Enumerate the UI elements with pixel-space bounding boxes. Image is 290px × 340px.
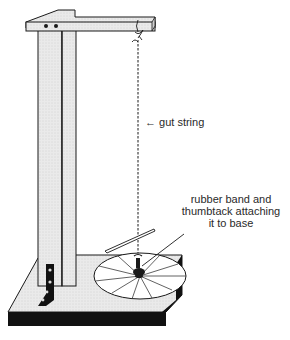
screw-hole-icon (44, 24, 48, 28)
gut-string-label: ← gut string (145, 116, 204, 128)
upright-post (38, 30, 76, 286)
screw-hole-icon (54, 24, 58, 28)
rubber-band-label-line1: rubber band and (172, 193, 290, 205)
torsion-pendulum-diagram (0, 0, 290, 340)
rubber-band-label-line3: it to base (172, 217, 290, 229)
rubber-band-label-line2: thumbtack attaching (172, 205, 290, 217)
crossbar (26, 10, 155, 31)
rubber-band-label: rubber band and thumbtack attaching it t… (172, 193, 290, 229)
pointer-needle (105, 229, 155, 253)
